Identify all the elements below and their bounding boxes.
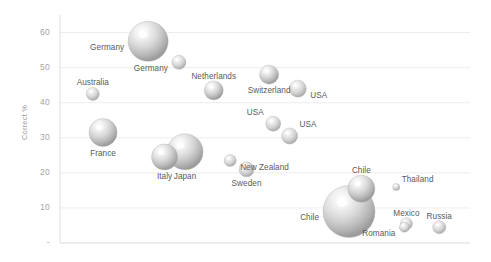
bubble-label-usa: USA <box>310 91 327 100</box>
bubble-label-romania: Romania <box>0 229 395 238</box>
bubble-germany[interactable] <box>128 21 168 61</box>
y-axis-tick-label: 20 <box>18 167 50 177</box>
bubble-chart: -102030405060 Correct % GermanyGermanyAu… <box>0 0 491 262</box>
bubble-russia[interactable] <box>433 221 446 234</box>
bubble-new-zealand[interactable] <box>224 155 236 167</box>
bubble-label-germany: Germany <box>0 64 168 73</box>
bubble-label-usa: USA <box>0 108 264 117</box>
bubble-highlight <box>355 182 361 187</box>
bubble-highlight <box>402 225 404 227</box>
bubble-usa[interactable] <box>282 128 298 144</box>
bubble-france[interactable] <box>89 119 117 147</box>
bubble-highlight <box>286 132 290 135</box>
bubble-label-australia: Australia <box>33 78 153 87</box>
bubbles-layer <box>86 21 445 237</box>
y-axis-tick-label: 60 <box>18 27 50 37</box>
bubble-highlight <box>176 59 179 61</box>
bubble-label-new-zealand: New Zealand <box>240 163 289 172</box>
bubble-highlight <box>394 185 396 186</box>
bubble-label-chile: Chile <box>0 213 319 222</box>
y-axis-title: Correct % <box>20 93 29 153</box>
bubble-chile[interactable] <box>348 175 375 202</box>
bubble-highlight <box>139 31 148 38</box>
bubble-highlight <box>227 158 230 160</box>
bubble-label-netherlands: Netherlands <box>154 72 274 81</box>
plot-area <box>0 0 491 262</box>
bubble-germany[interactable] <box>172 55 186 69</box>
bubble-highlight <box>270 120 273 123</box>
bubble-label-thailand: Thailand <box>402 175 434 184</box>
bubble-highlight <box>176 143 184 149</box>
bubble-label-usa: USA <box>300 120 317 129</box>
bubble-highlight <box>90 91 93 93</box>
bubble-label-chile: Chile <box>301 166 421 175</box>
bubble-label-france: France <box>43 149 163 158</box>
bubble-usa[interactable] <box>266 116 281 131</box>
bubble-label-russia: Russia <box>379 212 491 221</box>
bubble-label-germany: Germany <box>0 43 124 52</box>
bubble-romania[interactable] <box>399 222 409 232</box>
bubble-highlight <box>96 125 102 130</box>
bubble-highlight <box>436 224 439 226</box>
y-axis-tick-label: 10 <box>18 202 50 212</box>
bubble-australia[interactable] <box>86 87 99 100</box>
bubble-thailand[interactable] <box>393 183 400 190</box>
y-axis-tick-label: - <box>18 237 50 247</box>
bubble-highlight <box>337 198 348 207</box>
bubble-label-sweden: Sweden <box>187 179 307 188</box>
